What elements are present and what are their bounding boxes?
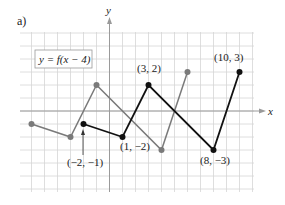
y-axis-arrow-icon xyxy=(107,17,112,24)
data-point xyxy=(146,82,152,88)
annotation-point-1: (−2, −1) xyxy=(67,156,104,169)
equation-label: y = f(x − 4) xyxy=(38,53,91,66)
annotation-arrow-head-icon xyxy=(81,129,85,135)
annotation-point-3: (3, 2) xyxy=(137,62,161,75)
data-point xyxy=(68,134,74,140)
y-axis-label: y xyxy=(105,4,111,16)
graph: x y a) y = f(x − 4) (−2, −1) (1, −2) (3,… xyxy=(0,0,285,205)
data-point xyxy=(81,121,87,127)
data-point xyxy=(237,69,243,75)
annotation-point-2: (1, −2) xyxy=(120,140,150,153)
annotation-point-4: (8, −3) xyxy=(200,154,230,167)
x-axis-arrow-icon xyxy=(259,109,266,114)
data-point xyxy=(159,147,165,153)
x-axis-label: x xyxy=(267,105,273,117)
data-point xyxy=(29,121,35,127)
annotation-point-5: (10, 3) xyxy=(214,51,244,64)
panel-label: a) xyxy=(17,14,26,28)
data-point xyxy=(211,147,217,153)
data-point xyxy=(185,69,191,75)
data-point xyxy=(94,82,100,88)
